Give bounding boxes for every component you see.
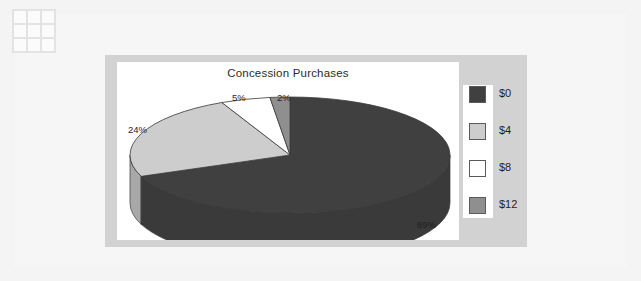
legend-item-label: $0 [499, 87, 511, 99]
grid-cell [42, 39, 54, 51]
pie-top-faces [130, 97, 450, 213]
legend-swatch-icon [469, 86, 486, 103]
grid-3x3-icon [12, 9, 56, 53]
legend-item-label: $12 [499, 198, 517, 210]
legend-item-0[interactable]: $0 [463, 85, 493, 105]
grid-cell [14, 39, 26, 51]
chart-plot-area: Concession Purchases 69% 24% 5% 2% [117, 62, 459, 240]
grid-cell [28, 11, 40, 23]
legend-swatch-icon [469, 197, 486, 214]
grid-cell [14, 11, 26, 23]
slice-label-1: 24% [128, 124, 147, 135]
grid-cell [28, 25, 40, 37]
grid-cell [28, 39, 40, 51]
grid-cell [42, 11, 54, 23]
screenshot-root: Concession Purchases 69% 24% 5% 2% $0 $4… [0, 0, 641, 281]
legend-item-1[interactable]: $4 [463, 122, 493, 142]
slice-label-3: 2% [277, 92, 291, 103]
slice-label-2: 5% [232, 92, 246, 103]
legend-swatch-icon [469, 123, 486, 140]
chart-legend: $0 $4 $8 $12 [463, 85, 493, 218]
legend-item-label: $4 [499, 124, 511, 136]
grid-cell [42, 25, 54, 37]
slice-label-0: 69% [417, 219, 436, 230]
pie-chart-graphic [117, 62, 459, 240]
legend-item-2[interactable]: $8 [463, 159, 493, 179]
legend-swatch-icon [469, 160, 486, 177]
legend-item-3[interactable]: $12 [463, 196, 493, 216]
legend-item-label: $8 [499, 161, 511, 173]
chart-frame: Concession Purchases 69% 24% 5% 2% $0 $4… [105, 55, 527, 247]
grid-cell [14, 25, 26, 37]
